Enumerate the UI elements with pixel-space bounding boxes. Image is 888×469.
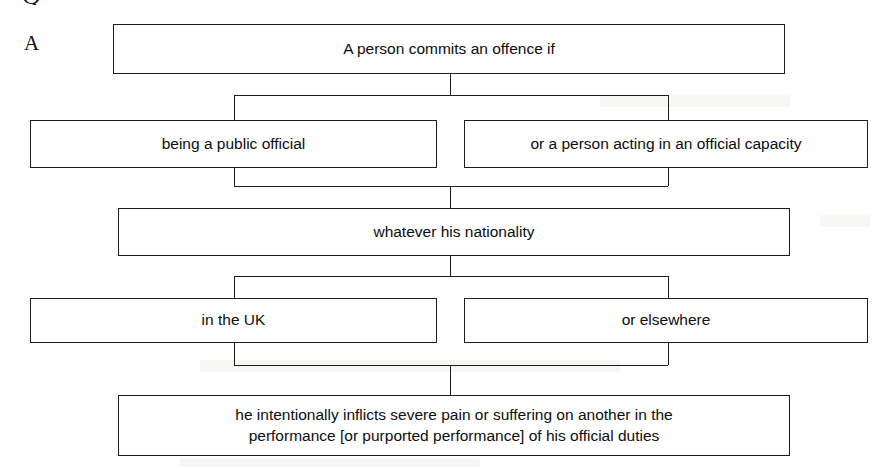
- panel-letter-a: A: [24, 33, 39, 54]
- node-or-elsewhere: or elsewhere: [464, 298, 868, 343]
- node-label: he intentionally inflicts severe pain or…: [235, 405, 672, 447]
- connector-bar-split-row4: [234, 276, 668, 277]
- node-offence-condition: A person commits an offence if: [113, 24, 785, 74]
- node-label: being a public official: [162, 134, 306, 155]
- connector-bar-split-row2: [234, 95, 668, 96]
- connector-rise-row2-left: [234, 168, 235, 186]
- connector-rise-row2-right: [668, 168, 669, 186]
- node-label: or a person acting in an official capaci…: [530, 134, 801, 155]
- node-public-official: being a public official: [30, 120, 437, 168]
- connector-stem-row3: [450, 256, 451, 276]
- figure-panel-a: Q A A person commits an offence if being…: [0, 0, 888, 469]
- clipped-glyph-above: Q: [22, 0, 52, 5]
- connector-bar-merge-row2: [234, 186, 668, 187]
- node-nationality: whatever his nationality: [118, 208, 790, 256]
- connector-drop-row4-right: [668, 276, 669, 298]
- scan-artifact: [600, 95, 790, 107]
- connector-stem-row1: [450, 74, 451, 95]
- node-severe-pain: he intentionally inflicts severe pain or…: [118, 395, 790, 456]
- connector-stem-to-row3: [450, 186, 451, 208]
- connector-stem-to-row5: [450, 365, 451, 395]
- scan-artifact: [200, 360, 620, 372]
- connector-rise-row4-right: [668, 343, 669, 365]
- node-label: in the UK: [202, 310, 266, 331]
- node-label: A person commits an offence if: [343, 39, 555, 60]
- node-label: or elsewhere: [622, 310, 711, 331]
- connector-rise-row4-left: [234, 343, 235, 365]
- connector-drop-row2-right: [668, 95, 669, 122]
- node-in-the-uk: in the UK: [30, 298, 437, 343]
- scan-artifact: [820, 215, 870, 227]
- connector-drop-row4-left: [234, 276, 235, 298]
- scan-artifact: [180, 458, 480, 467]
- node-official-capacity: or a person acting in an official capaci…: [464, 120, 868, 168]
- connector-bar-merge-row4: [234, 365, 668, 366]
- node-label: whatever his nationality: [373, 222, 534, 243]
- connector-drop-row2-left: [234, 95, 235, 122]
